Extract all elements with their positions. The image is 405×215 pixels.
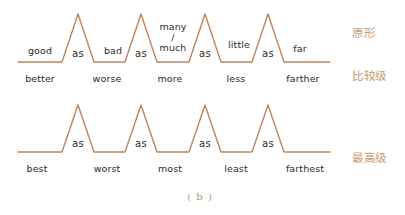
row-positive-comparative-bottom-label-2: more xyxy=(157,73,182,84)
side-label-2: 最高级 xyxy=(352,152,387,165)
row-superlative-polyline xyxy=(18,105,330,152)
row-superlative-bottom-label-3: least xyxy=(224,163,247,174)
row-positive-comparative-top-label-1: as xyxy=(72,48,84,59)
row-positive-comparative-bottom-label-1: worse xyxy=(93,73,122,84)
row-superlative-bottom-label-2: most xyxy=(158,163,182,174)
zigzag-lines xyxy=(0,0,405,215)
side-label-0: 原形 xyxy=(352,27,375,40)
row-positive-comparative-top-label-6: little xyxy=(228,39,250,50)
row-positive-comparative-top-label-2: bad xyxy=(104,45,122,56)
row-positive-comparative-top-label-5: as xyxy=(199,48,211,59)
figure-caption: ( b ) xyxy=(187,191,213,202)
row-superlative-bottom-label-4: farthest xyxy=(286,163,324,174)
row-superlative-top-label-3: as xyxy=(262,138,274,149)
row-positive-comparative-top-label-7: as xyxy=(262,48,274,59)
row-positive-comparative-bottom-label-0: better xyxy=(25,73,55,84)
row-positive-comparative-top-label-4: many/much xyxy=(153,22,193,54)
row-superlative-bottom-label-1: worst xyxy=(94,163,121,174)
row-positive-comparative-bottom-label-4: farther xyxy=(286,73,319,84)
row-superlative-top-label-0: as xyxy=(72,138,84,149)
row-superlative-top-label-2: as xyxy=(199,138,211,149)
row-positive-comparative-top-label-8: far xyxy=(293,43,306,54)
row-superlative-bottom-label-0: best xyxy=(27,163,48,174)
row-positive-comparative-top-label-3: as xyxy=(135,48,147,59)
row-positive-comparative-top-label-0: good xyxy=(28,45,52,56)
row-positive-comparative-bottom-label-3: less xyxy=(227,73,246,84)
side-label-1: 比较级 xyxy=(352,70,387,83)
row-superlative-top-label-1: as xyxy=(135,138,147,149)
comparative-superlative-diagram: goodasbadasmany/muchaslittleasfarbetterw… xyxy=(0,0,405,215)
